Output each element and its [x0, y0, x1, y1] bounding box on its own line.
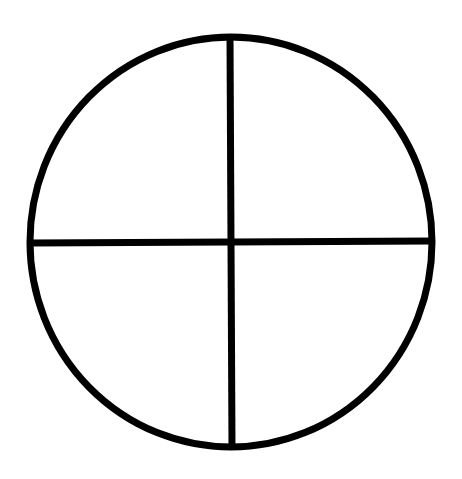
horizontal-divider-line [31, 241, 432, 243]
diagram-canvas [0, 0, 462, 479]
quartered-circle-diagram [0, 0, 462, 479]
